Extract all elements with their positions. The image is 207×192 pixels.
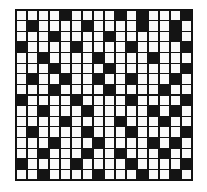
grid-cell — [115, 95, 126, 106]
grid-cell — [159, 95, 170, 106]
grid-cell — [137, 148, 148, 159]
grid-cell — [126, 169, 137, 180]
grid-cell — [38, 53, 49, 64]
grid-cell — [148, 84, 159, 95]
grid-cell — [181, 106, 192, 117]
grid-cell — [181, 148, 192, 159]
grid-cell — [71, 84, 82, 95]
grid-cell — [126, 63, 137, 74]
grid-cell — [16, 95, 27, 106]
grid-cell — [170, 138, 181, 149]
grid-cell — [126, 74, 137, 85]
grid-cell — [82, 116, 93, 127]
grid-cell — [115, 106, 126, 117]
grid-cell — [93, 127, 104, 138]
grid-cell — [82, 21, 93, 32]
grid-cell — [104, 116, 115, 127]
grid-cell — [148, 116, 159, 127]
grid-cell — [38, 138, 49, 149]
grid-cell — [115, 31, 126, 42]
grid-cell — [16, 84, 27, 95]
grid-cell — [93, 159, 104, 170]
grid-cell — [93, 106, 104, 117]
grid-cell — [181, 84, 192, 95]
grid-cell — [71, 42, 82, 53]
grid-cell — [49, 95, 60, 106]
grid-cell — [16, 127, 27, 138]
grid-cell — [16, 159, 27, 170]
grid-cell — [170, 31, 181, 42]
grid-cell — [93, 63, 104, 74]
grid-cell — [137, 42, 148, 53]
grid-cell — [170, 74, 181, 85]
grid-cell — [148, 106, 159, 117]
grid-cell — [159, 138, 170, 149]
grid-cell — [104, 21, 115, 32]
grid-cell — [115, 53, 126, 64]
grid-cell — [38, 169, 49, 180]
grid-cell — [159, 106, 170, 117]
grid-cell — [104, 84, 115, 95]
grid-cell — [126, 42, 137, 53]
grid-cell — [148, 21, 159, 32]
grid-cell — [38, 63, 49, 74]
grid-cell — [71, 169, 82, 180]
grid-cell — [126, 31, 137, 42]
grid-cell — [49, 63, 60, 74]
grid-cell — [93, 84, 104, 95]
grid-cell — [137, 106, 148, 117]
grid-cell — [126, 106, 137, 117]
grid-cell — [71, 31, 82, 42]
grid-cell — [27, 63, 38, 74]
grid-cell — [148, 63, 159, 74]
grid-cell — [137, 127, 148, 138]
grid-cell — [170, 10, 181, 21]
grid-cell — [49, 106, 60, 117]
grid-cell — [71, 116, 82, 127]
grid-cell — [16, 21, 27, 32]
grid-cell — [27, 106, 38, 117]
grid-cell — [27, 10, 38, 21]
grid-cell — [148, 169, 159, 180]
grid-cell — [49, 42, 60, 53]
grid-cell — [137, 31, 148, 42]
grid-cell — [137, 138, 148, 149]
grid-cell — [16, 148, 27, 159]
grid-cell — [49, 31, 60, 42]
grid-cell — [71, 95, 82, 106]
grid-cell — [159, 169, 170, 180]
grid-cell — [170, 84, 181, 95]
grid-cell — [93, 53, 104, 64]
grid-cell — [181, 31, 192, 42]
grid-cell — [71, 159, 82, 170]
grid-cell — [159, 84, 170, 95]
grid-cell — [170, 53, 181, 64]
grid-cell — [27, 169, 38, 180]
grid-cell — [181, 138, 192, 149]
grid-cell — [49, 84, 60, 95]
grid-cell — [104, 106, 115, 117]
grid-cell — [104, 53, 115, 64]
grid-cell — [49, 74, 60, 85]
grid-cell — [115, 74, 126, 85]
grid-cell — [49, 148, 60, 159]
grid-cell — [104, 169, 115, 180]
grid-cell — [181, 53, 192, 64]
grid-cell — [170, 95, 181, 106]
binary-grid-canvas — [16, 10, 192, 180]
grid-cell — [126, 116, 137, 127]
grid-cell — [104, 10, 115, 21]
grid-cell — [16, 106, 27, 117]
grid-cell — [126, 148, 137, 159]
grid-cell — [27, 42, 38, 53]
grid-cell — [126, 127, 137, 138]
grid-cell — [82, 53, 93, 64]
grid-cell — [159, 127, 170, 138]
grid-cell — [170, 116, 181, 127]
grid-cell — [71, 127, 82, 138]
grid-cell — [38, 21, 49, 32]
grid-cell — [16, 31, 27, 42]
grid-cell — [27, 138, 38, 149]
grid-cell — [159, 21, 170, 32]
grid-cell — [104, 95, 115, 106]
